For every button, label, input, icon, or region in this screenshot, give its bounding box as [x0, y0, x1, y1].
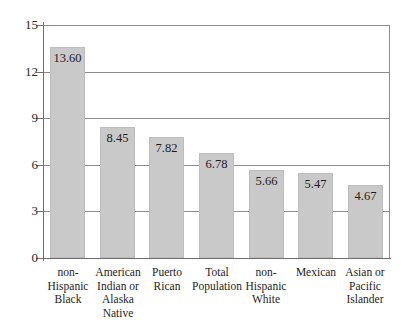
x-axis-category-label: AmericanIndian orAlaskaNative — [93, 266, 143, 320]
x-axis-label-line: White — [241, 293, 291, 307]
bar — [149, 137, 184, 258]
bar-value-label: 5.47 — [288, 178, 343, 191]
x-axis-label-line: Alaska — [93, 293, 143, 307]
x-axis-label-line: Mexican — [291, 266, 341, 280]
y-axis-tick-label: 6 — [12, 158, 38, 171]
bar-chart: 03691215 13.608.457.826.785.665.474.67 n… — [0, 0, 412, 326]
bar-value-label: 5.66 — [239, 175, 294, 188]
x-axis-category-label: non-HispanicWhite — [241, 266, 291, 307]
x-axis-label-line: Native — [93, 307, 143, 321]
x-axis-category-label: non-HispanicBlack — [43, 266, 93, 307]
x-axis-label-line: Indian or — [93, 280, 143, 294]
bar-value-label: 13.60 — [40, 52, 95, 65]
x-axis-category-label: Asian orPacificIslander — [340, 266, 390, 307]
bar — [50, 47, 85, 258]
x-axis-label-line: Rican — [142, 280, 192, 294]
x-axis-label-line: Islander — [340, 293, 390, 307]
bar — [100, 127, 135, 258]
x-axis-label-line: Total — [192, 266, 242, 280]
bar-value-label: 7.82 — [139, 142, 194, 155]
y-axis-tick-label: 15 — [12, 18, 38, 31]
x-axis-category-label: TotalPopulation — [192, 266, 242, 293]
x-axis-label-line: American — [93, 266, 143, 280]
bar-value-label: 6.78 — [189, 158, 244, 171]
x-axis-label-line: Population — [192, 280, 242, 294]
y-axis-tick-label: 9 — [12, 111, 38, 124]
y-axis-tick-label: 12 — [12, 65, 38, 78]
x-axis-label-line: non- — [241, 266, 291, 280]
x-axis-label-line: Asian or — [340, 266, 390, 280]
x-axis-category-label: Mexican — [291, 266, 341, 280]
bar-value-label: 8.45 — [90, 132, 145, 145]
bar-value-label: 4.67 — [338, 190, 393, 203]
x-axis-label-line: non- — [43, 266, 93, 280]
x-axis-line — [43, 258, 391, 259]
x-axis-label-line: Black — [43, 293, 93, 307]
x-axis-label-line: Hispanic — [241, 280, 291, 294]
x-axis-category-label: PuertoRican — [142, 266, 192, 293]
y-axis-tick-label: 0 — [12, 251, 38, 264]
x-axis-label-line: Hispanic — [43, 280, 93, 294]
y-axis-tick-label: 3 — [12, 204, 38, 217]
x-axis-label-line: Puerto — [142, 266, 192, 280]
x-axis-label-line: Pacific — [340, 280, 390, 294]
